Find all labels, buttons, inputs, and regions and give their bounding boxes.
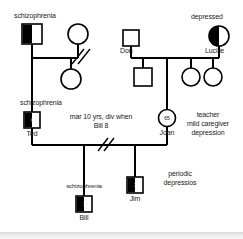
person-aunt-2 [204,68,222,86]
label-joan-note-line3: depression [191,129,224,137]
person-don [123,30,139,46]
label-ted-schizophrenia: schizophrenia [20,99,62,107]
label-lucille-depressed: depressed [191,13,223,21]
label-jim-note-line2: depressios [164,179,197,187]
label-joan: Joan [160,129,175,137]
genogram-canvas: 61 65 30 27 schizophrenia depressed Don … [0,0,243,239]
divorce-marks [72,49,114,151]
label-ted: Ted [27,130,38,138]
label-joan-note-line1: teacher [197,111,220,119]
person-aunt-left [61,69,81,89]
person-ted [24,112,40,128]
label-lucille: Lucille [205,47,224,55]
label-marriage-note-line1: mar 10 yrs, div when [70,113,133,121]
person-aunt-1 [182,68,200,86]
label-don: Don [120,47,133,55]
label-bill: Bill [80,214,89,222]
person-grandmother-left [68,24,88,44]
person-bill [76,196,92,212]
label-jim: Jim [130,195,141,203]
person-uncle-1 [134,68,152,86]
person-lucille [209,26,229,46]
person-joan [159,110,176,127]
label-bill-schizophrenia: schizophrenia [66,182,102,190]
person-jim [127,177,143,193]
label-grandfather-schizophrenia: schizophrenia [14,12,56,20]
person-grandfather-left [22,24,42,44]
bottom-gradient-band [0,232,243,239]
label-jim-note-line1: periodic [168,170,192,178]
divorce-slash-left-b [78,49,90,64]
label-marriage-note-line2: Bill 8 [94,122,109,130]
label-joan-note-line2: mild caregiver [187,120,229,128]
